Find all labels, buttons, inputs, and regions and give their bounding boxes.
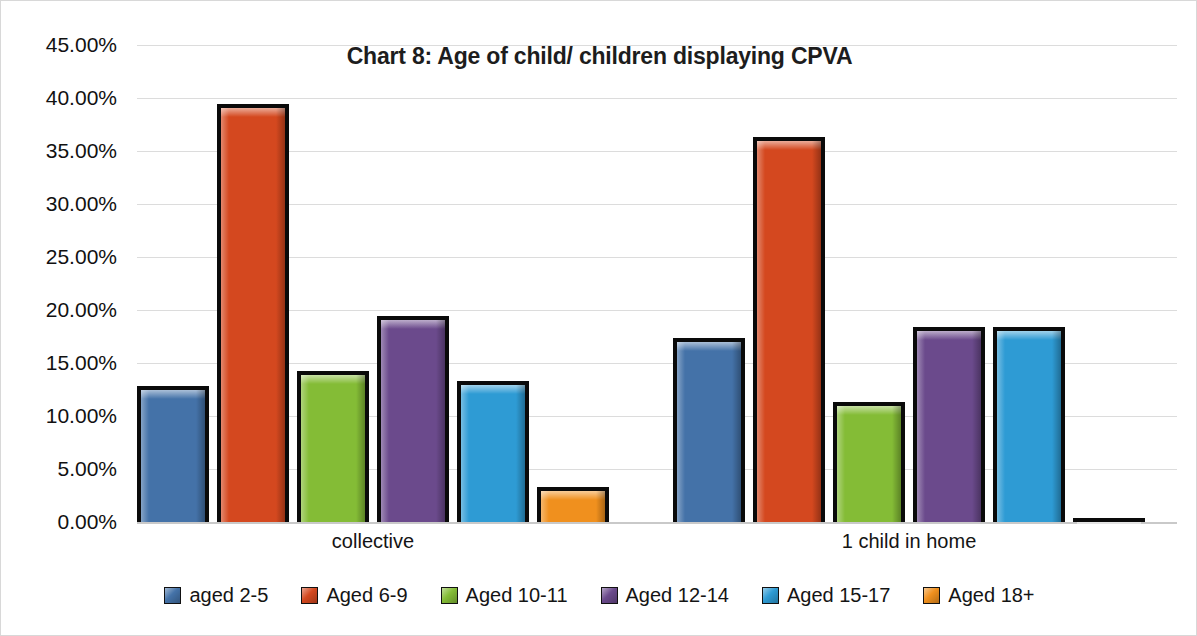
legend-label: aged 2-5 xyxy=(189,584,268,607)
bar-bevel-right xyxy=(276,108,285,522)
legend-swatch-bevel xyxy=(302,588,317,603)
legend-swatch-bevel xyxy=(165,588,180,603)
bar-bevel-top xyxy=(997,331,1061,340)
bar[interactable] xyxy=(1073,518,1145,522)
legend-item[interactable]: Aged 12-14 xyxy=(601,584,729,607)
bar-bevel-top xyxy=(541,491,605,500)
legend-label: Aged 15-17 xyxy=(787,584,890,607)
y-axis-tick-label: 10.00% xyxy=(7,404,117,428)
bar-bevel-top xyxy=(677,342,741,351)
bar-bevel-right xyxy=(972,331,981,522)
legend-swatch-bevel xyxy=(763,588,778,603)
bar-bevel-top xyxy=(917,331,981,340)
bar[interactable] xyxy=(137,386,209,522)
y-axis-tick-label: 0.00% xyxy=(7,510,117,534)
legend-label: Aged 6-9 xyxy=(326,584,407,607)
bar-bevel-top xyxy=(301,375,365,384)
bar-bevel-left xyxy=(997,331,1005,522)
x-axis-category-label: 1 child in home xyxy=(842,530,977,553)
legend-swatch-icon xyxy=(441,587,458,604)
bar-bevel-top xyxy=(461,385,525,394)
legend-swatch-icon xyxy=(762,587,779,604)
legend-swatch-icon xyxy=(923,587,940,604)
legend-swatch-bevel xyxy=(924,588,939,603)
bar[interactable] xyxy=(297,371,369,522)
bar-bevel-top xyxy=(221,108,285,117)
bar-bevel-right xyxy=(516,385,525,522)
bar-bevel-left xyxy=(141,390,149,522)
bar-bevel-left xyxy=(757,141,765,522)
bar-bevel-left xyxy=(301,375,309,522)
legend-label: Aged 12-14 xyxy=(626,584,729,607)
bar[interactable] xyxy=(377,316,449,522)
legend-swatch-bevel xyxy=(442,588,457,603)
bar-bevel-left xyxy=(541,491,549,522)
bar-bevel-left xyxy=(461,385,469,522)
y-axis-tick-label: 35.00% xyxy=(7,139,117,163)
bar-bevel-right xyxy=(356,375,365,522)
x-axis-category-label: collective xyxy=(332,530,414,553)
bar-bevel-left xyxy=(677,342,685,522)
bar-bevel-right xyxy=(732,342,741,522)
y-axis-tick-label: 15.00% xyxy=(7,351,117,375)
y-axis-tick-label: 45.00% xyxy=(7,33,117,57)
bar-bevel-right xyxy=(436,320,445,522)
y-axis-tick-label: 40.00% xyxy=(7,86,117,110)
bar-bevel-left xyxy=(837,406,845,522)
bar-bevel-top xyxy=(837,406,901,415)
bar[interactable] xyxy=(457,381,529,522)
bar-bevel-right xyxy=(892,406,901,522)
bar[interactable] xyxy=(913,327,985,522)
bar[interactable] xyxy=(993,327,1065,522)
bar[interactable] xyxy=(833,402,905,522)
x-axis-line xyxy=(137,522,1177,524)
plot-area xyxy=(137,45,1177,522)
bar[interactable] xyxy=(753,137,825,522)
bar[interactable] xyxy=(537,487,609,522)
legend-swatch-icon xyxy=(164,587,181,604)
bar-bevel-left xyxy=(917,331,925,522)
bar-bevel-top xyxy=(141,390,205,399)
bar-bevel-top xyxy=(757,141,821,150)
y-axis-tick-label: 30.00% xyxy=(7,192,117,216)
bar-bevel-left xyxy=(221,108,229,522)
bar-bevel-right xyxy=(196,390,205,522)
legend: aged 2-5Aged 6-9Aged 10-11Aged 12-14Aged… xyxy=(1,584,1197,607)
bar[interactable] xyxy=(673,338,745,522)
chart-container: Chart 8: Age of child/ children displayi… xyxy=(0,0,1197,636)
y-axis-tick-label: 25.00% xyxy=(7,245,117,269)
bar-bevel-top xyxy=(381,320,445,329)
legend-item[interactable]: Aged 6-9 xyxy=(301,584,407,607)
legend-item[interactable]: Aged 15-17 xyxy=(762,584,890,607)
legend-label: Aged 10-11 xyxy=(466,584,568,607)
legend-swatch-bevel xyxy=(602,588,617,603)
legend-swatch-icon xyxy=(301,587,318,604)
y-axis-tick-label: 20.00% xyxy=(7,298,117,322)
bar[interactable] xyxy=(217,104,289,522)
bar-bevel-left xyxy=(381,320,389,522)
legend-swatch-icon xyxy=(601,587,618,604)
legend-item[interactable]: aged 2-5 xyxy=(164,584,268,607)
bar-bevel-right xyxy=(1052,331,1061,522)
legend-label: Aged 18+ xyxy=(948,584,1034,607)
bar-bevel-right xyxy=(812,141,821,522)
y-axis-tick-label: 5.00% xyxy=(7,457,117,481)
legend-item[interactable]: Aged 18+ xyxy=(923,584,1034,607)
bar-bevel-right xyxy=(596,491,605,522)
legend-item[interactable]: Aged 10-11 xyxy=(441,584,568,607)
